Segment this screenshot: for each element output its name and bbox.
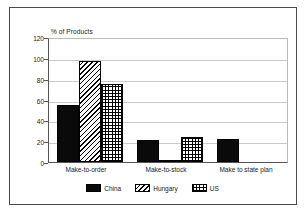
y-axis-title: % of Products	[51, 28, 93, 35]
plot-area	[48, 38, 288, 163]
bar-china[interactable]	[57, 105, 79, 162]
bar-us[interactable]	[181, 137, 203, 162]
legend-item[interactable]: China	[86, 184, 121, 192]
legend-swatch-icon	[135, 184, 150, 192]
y-axis-tick-label: 40	[4, 118, 44, 125]
x-axis-category-label: Make to state plan	[219, 166, 272, 173]
bar-hungary[interactable]	[79, 61, 101, 162]
bar-group	[49, 39, 129, 162]
y-axis-tick-label: 20	[4, 139, 44, 146]
legend-swatch-icon	[86, 184, 101, 192]
legend-label: US	[210, 185, 219, 192]
legend-label: Hungary	[153, 185, 178, 192]
x-axis-category-label: Make-to-stock	[146, 166, 187, 173]
y-axis-tick-label: 60	[4, 97, 44, 104]
y-axis-tick-label: 80	[4, 76, 44, 83]
bar-chart: % of Products 020406080100120 Make-to-or…	[0, 0, 305, 213]
x-axis-tick-labels: Make-to-orderMake-to-stockMake to state …	[48, 166, 288, 178]
legend-swatch-icon	[192, 184, 207, 192]
y-axis-tick-label: 0	[4, 160, 44, 167]
bar-group	[209, 39, 289, 162]
legend-label: China	[104, 185, 121, 192]
bar-group-bars	[49, 39, 137, 162]
bar-group	[129, 39, 209, 162]
bar-us[interactable]	[101, 84, 123, 162]
y-axis-tick-label: 100	[4, 55, 44, 62]
bar-china[interactable]	[137, 140, 159, 162]
chart-legend: ChinaHungaryUS	[0, 184, 305, 192]
legend-item[interactable]: Hungary	[135, 184, 178, 192]
y-axis-tick-label: 120	[4, 35, 44, 42]
chart-page: % of Products 020406080100120 Make-to-or…	[0, 0, 305, 213]
bar-china[interactable]	[217, 139, 239, 162]
bar-group-bars	[209, 39, 297, 162]
x-axis-category-label: Make-to-order	[66, 166, 107, 173]
legend-item[interactable]: US	[192, 184, 219, 192]
y-axis-tick-mark	[44, 163, 48, 164]
y-axis-tick-labels: 020406080100120	[0, 38, 44, 163]
bar-group-bars	[129, 39, 217, 162]
bar-hungary[interactable]	[159, 160, 181, 162]
